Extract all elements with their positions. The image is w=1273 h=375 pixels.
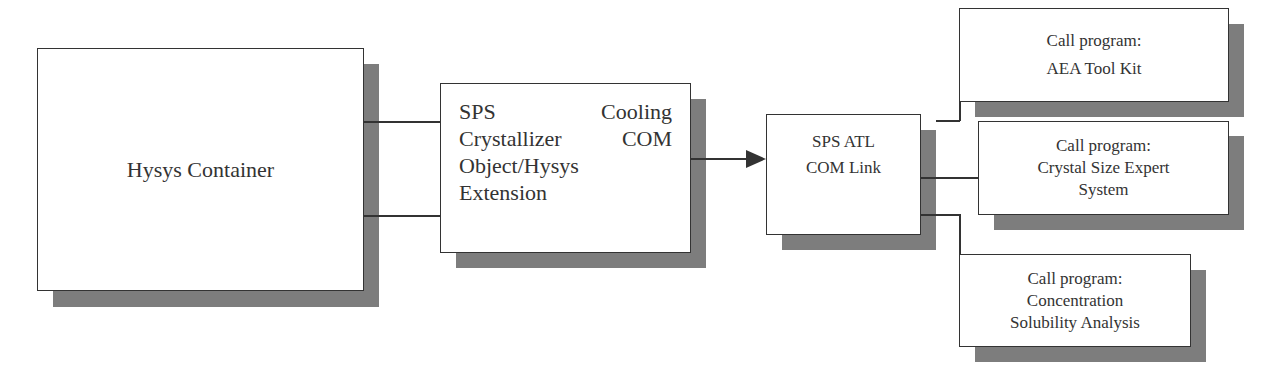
atl-link-text: SPS ATL COM Link <box>767 129 920 181</box>
connector-atl-concentration-vertical <box>959 214 961 255</box>
program-crystal-line-1: Call program: <box>1037 135 1169 157</box>
atl-link-box: SPS ATL COM Link <box>766 114 921 235</box>
arrow-head-icon <box>746 150 766 168</box>
program-concentration-text: Call program: Concentration Solubility A… <box>1010 268 1140 334</box>
program-aea-line-1: Call program: <box>1047 30 1142 52</box>
program-crystal-line-3: System <box>1037 179 1169 201</box>
program-crystal-box: Call program: Crystal Size Expert System <box>978 121 1229 215</box>
extension-word: Extension <box>459 179 547 206</box>
hysys-container-box: Hysys Container <box>37 48 364 291</box>
com-word: COM <box>622 125 672 152</box>
connector-hysys-sps-bottom <box>364 215 440 217</box>
cooling-word: Cooling <box>601 98 672 125</box>
program-concentration-line-3: Solubility Analysis <box>1010 312 1140 334</box>
connector-hysys-sps-top <box>364 121 440 123</box>
program-concentration-line-2: Concentration <box>1010 290 1140 312</box>
program-crystal-line-2: Crystal Size Expert <box>1037 157 1169 179</box>
connector-atl-aea-vertical <box>959 100 961 121</box>
program-aea-text: Call program: AEA Tool Kit <box>1047 30 1142 80</box>
sps-object-line-3: Object/Hysys <box>459 152 672 179</box>
hysys-container-label: Hysys Container <box>127 157 274 183</box>
atl-link-line-1: SPS ATL <box>767 129 920 155</box>
sps-word: SPS <box>459 98 496 125</box>
arrow-sps-atl-shaft <box>691 158 747 160</box>
sps-object-box: SPS Cooling Crystallizer COM Object/Hysy… <box>440 83 691 253</box>
program-aea-box: Call program: AEA Tool Kit <box>959 8 1229 102</box>
program-concentration-box: Call program: Concentration Solubility A… <box>959 254 1191 347</box>
connector-atl-aea-horizontal <box>936 120 960 122</box>
atl-link-line-2: COM Link <box>767 155 920 181</box>
program-aea-line-2: AEA Tool Kit <box>1047 58 1142 80</box>
connector-atl-concentration-horizontal <box>921 214 960 216</box>
program-crystal-text: Call program: Crystal Size Expert System <box>1037 135 1169 201</box>
crystallizer-word: Crystallizer <box>459 125 562 152</box>
sps-object-line-1: SPS Cooling <box>459 98 672 125</box>
sps-object-line-2: Crystallizer COM <box>459 125 672 152</box>
object-hysys-word: Object/Hysys <box>459 152 579 179</box>
program-concentration-line-1: Call program: <box>1010 268 1140 290</box>
connector-atl-crystal <box>921 177 978 179</box>
sps-object-line-4: Extension <box>459 179 672 206</box>
sps-object-text: SPS Cooling Crystallizer COM Object/Hysy… <box>459 98 672 206</box>
